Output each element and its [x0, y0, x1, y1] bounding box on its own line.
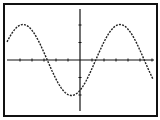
graph-screen — [0, 0, 160, 120]
graph-plot — [0, 0, 160, 120]
